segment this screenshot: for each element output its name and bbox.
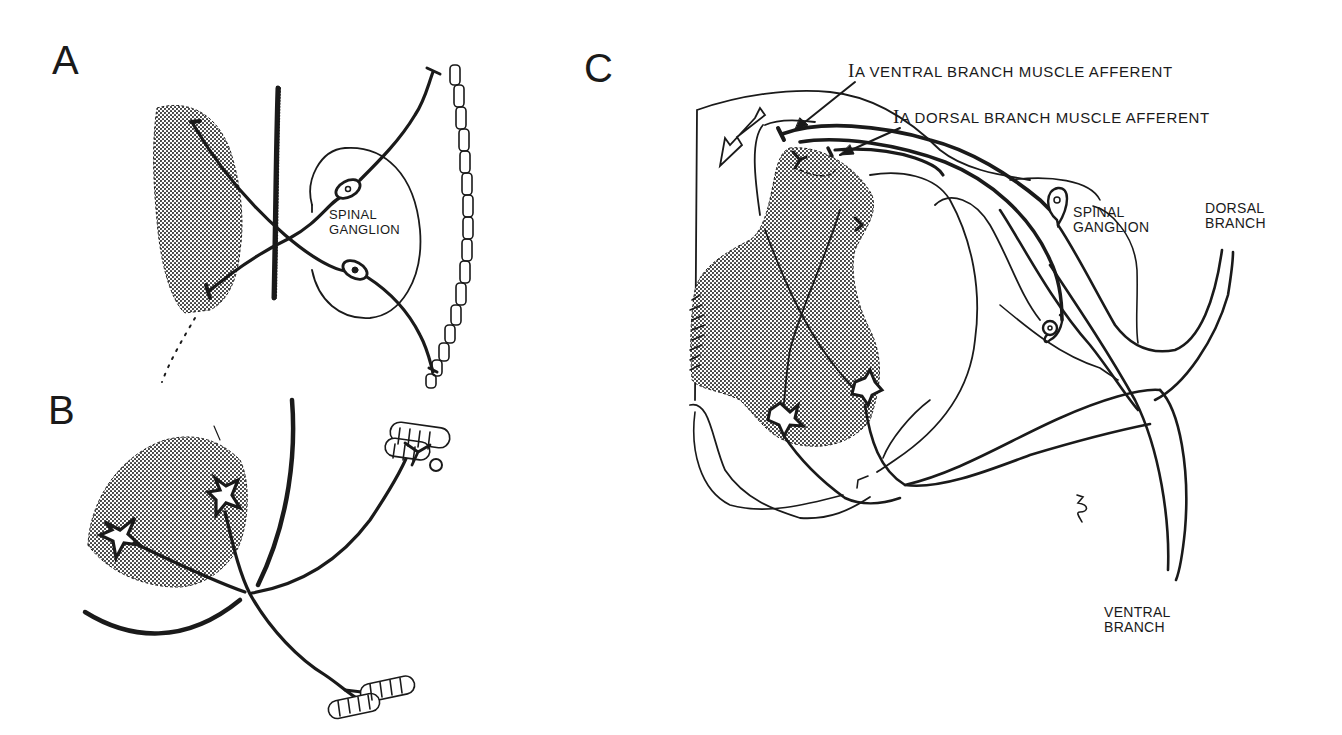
panel-label-a: A <box>52 40 79 80</box>
panel-a-drawing <box>154 65 473 388</box>
panel-label-b: B <box>48 390 75 430</box>
dorsal-branch-label-line1: DORSAL <box>1205 201 1266 216</box>
outflow-arrow <box>720 108 765 166</box>
spinal-ganglion-label-a-line2: GANGLION <box>329 222 400 237</box>
ventral-branch-label-line2: BRANCH <box>1104 620 1171 635</box>
panel-label-c: C <box>584 48 613 88</box>
grey-matter-region-b <box>88 437 247 587</box>
ia-dorsal-branch-muscle-afferent-label: IA DORSAL BRANCH MUSCLE AFFERENT <box>893 106 1210 128</box>
ventral-branch-label-line1: VENTRAL <box>1104 605 1171 620</box>
muscle-fiber-bundle-b-upper <box>384 421 451 471</box>
ventral-branch-nerve-inner <box>1050 265 1168 570</box>
ia-ventral-text: A VENTRAL BRANCH MUSCLE AFFERENT <box>855 63 1173 80</box>
dorsal-branch-label: DORSAL BRANCH <box>1205 201 1266 231</box>
ia-dorsal-prefix: I <box>893 106 900 127</box>
panel-b-drawing <box>85 400 451 720</box>
ia-dorsal-text: A DORSAL BRANCH MUSCLE AFFERENT <box>900 109 1210 126</box>
ventral-branch-nerve-outer <box>1160 390 1186 580</box>
dorsal-branch-label-line2: BRANCH <box>1205 216 1266 231</box>
grey-matter-region-a <box>154 105 242 313</box>
ia-ventral-prefix: I <box>848 60 855 81</box>
spinal-ganglion-label-a: SPINAL GANGLION <box>329 207 400 237</box>
small-mark <box>1077 495 1087 522</box>
spinal-boundary-b-bottom <box>85 600 240 633</box>
muscle-fiber-chain-a <box>426 65 473 388</box>
spinal-boundary-b-right <box>258 400 293 585</box>
ganglion-cell-c-upper <box>1048 188 1067 225</box>
muscle-fiber-bundle-b-lower <box>327 674 417 720</box>
neuroanatomy-figure: A B C SPINAL GANGLION IA VENTRAL BRANCH … <box>0 0 1342 735</box>
grey-matter-region-c <box>691 148 880 447</box>
ia-ventral-branch-muscle-afferent-label: IA VENTRAL BRANCH MUSCLE AFFERENT <box>848 60 1173 82</box>
ventral-branch-label: VENTRAL BRANCH <box>1104 605 1171 635</box>
panel-c-drawing <box>690 82 1233 580</box>
spinal-ganglion-label-c: SPINAL GANGLION <box>1073 205 1149 235</box>
spinal-ganglion-label-c-line2: GANGLION <box>1073 220 1149 235</box>
spinal-ganglion-label-c-line1: SPINAL <box>1073 205 1149 220</box>
spinal-ganglion-label-a-line1: SPINAL <box>329 207 400 222</box>
dorsal-branch-nerve <box>1058 225 1222 351</box>
